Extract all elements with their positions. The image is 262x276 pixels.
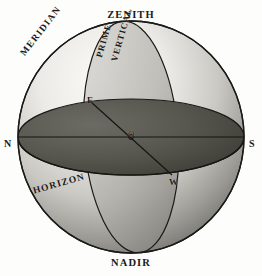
label-north: N bbox=[4, 139, 12, 149]
label-west: W bbox=[169, 178, 179, 187]
label-center-o: O bbox=[128, 130, 135, 139]
celestial-sphere-figure: ZENITH NADIR N S E W O MERIDIAN PRIME VE… bbox=[0, 0, 262, 276]
label-south: S bbox=[249, 139, 255, 149]
label-east: E bbox=[87, 96, 94, 105]
label-nadir: NADIR bbox=[0, 258, 262, 269]
